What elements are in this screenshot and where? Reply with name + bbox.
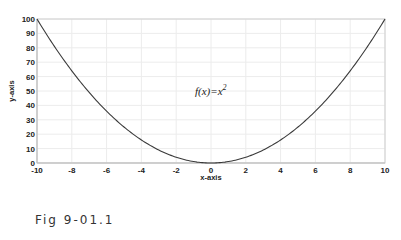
svg-text:90: 90 [26,29,35,38]
svg-text:10: 10 [381,166,390,175]
svg-text:100: 100 [22,15,36,24]
svg-text:2: 2 [244,166,249,175]
svg-text:-8: -8 [68,166,76,175]
svg-text:8: 8 [348,166,353,175]
chart: 0102030405060708090100 -10-8-6-4-2024681… [0,0,401,240]
svg-text:20: 20 [26,130,35,139]
svg-text:-4: -4 [138,166,146,175]
svg-text:60: 60 [26,73,35,82]
svg-text:30: 30 [26,116,35,125]
y-axis-label: y-axis [7,80,16,101]
svg-text:50: 50 [26,87,35,96]
svg-text:40: 40 [26,101,35,110]
svg-text:6: 6 [313,166,318,175]
x-axis-label: x-axis [200,173,221,182]
y-tick-labels: 0102030405060708090100 [22,15,36,168]
function-annotation: f(x)=x2 [195,83,227,98]
svg-text:80: 80 [26,44,35,53]
figure-caption: Fig 9-01.1 [35,213,114,227]
svg-text:4: 4 [278,166,283,175]
svg-text:-10: -10 [31,166,43,175]
svg-text:-2: -2 [173,166,181,175]
svg-text:70: 70 [26,58,35,67]
svg-text:10: 10 [26,145,35,154]
svg-text:-6: -6 [103,166,111,175]
